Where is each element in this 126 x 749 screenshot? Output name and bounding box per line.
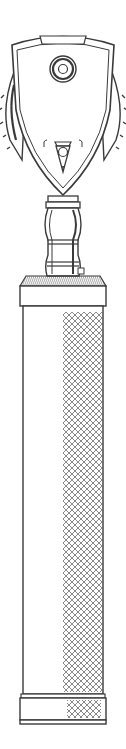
end-cap xyxy=(20,694,106,724)
top-plate xyxy=(40,36,86,44)
ophthalmoscope-drawing xyxy=(0,0,126,749)
handle-body xyxy=(23,306,103,694)
handle-collar xyxy=(20,276,106,306)
knurled-grip xyxy=(63,312,103,692)
viewing-aperture xyxy=(50,56,76,82)
neck xyxy=(45,196,84,276)
illustration-canvas xyxy=(0,0,126,749)
switch-nub xyxy=(78,268,84,274)
